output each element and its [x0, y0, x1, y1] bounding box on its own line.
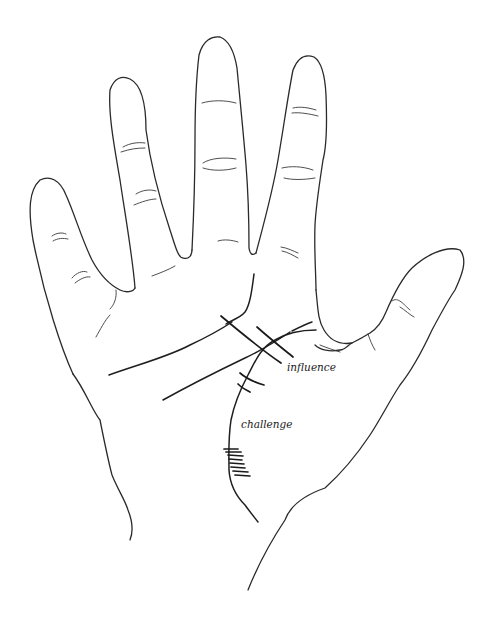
ring-finger-outline [110, 77, 192, 288]
palm-lines [109, 274, 316, 522]
palm-diagram: influence challenge [0, 0, 493, 627]
heart-line [109, 322, 232, 375]
middle-finger-outline [192, 37, 256, 255]
challenge-ladder [224, 449, 250, 476]
little-finger-outline [30, 178, 135, 374]
finger-creases [52, 101, 414, 352]
challenge-label: challenge [241, 418, 293, 430]
influence-label: influence [287, 361, 336, 373]
palm-left-outline [73, 374, 132, 540]
influence-marks [221, 316, 293, 363]
fate-line-upper [226, 274, 254, 324]
